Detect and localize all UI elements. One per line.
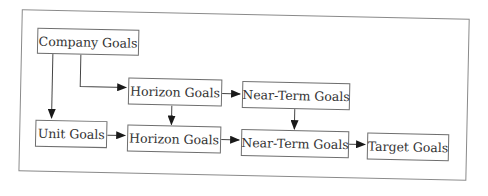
node-company-goals: Company Goals [37,28,140,56]
node-near-term-goals-top: Near-Term Goals [242,81,351,110]
node-unit-goals: Unit Goals [35,120,108,149]
arrow-company-to-unit [52,53,53,118]
node-target-goals: Target Goals [367,133,450,162]
arrow-company-to-horizon-top [80,54,127,88]
node-horizon-goals-bottom: Horizon Goals [127,125,222,154]
node-horizon-goals-top: Horizon Goals [128,78,223,107]
node-near-term-goals-bottom: Near-Term Goals [241,129,350,158]
diagram-canvas: Company Goals Horizon Goals Near-Term Go… [0,0,488,196]
